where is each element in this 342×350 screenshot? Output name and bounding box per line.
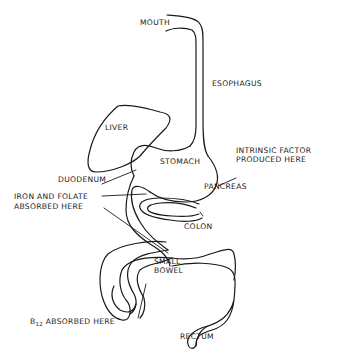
label-duodenum: DUODENUM xyxy=(58,175,106,184)
label-intrinsic-factor-line1: INTRINSIC FACTOR xyxy=(236,146,312,155)
label-rectum: RECTUM xyxy=(180,332,214,341)
label-iron-folate-line1: IRON AND FOLATE xyxy=(14,192,88,201)
label-intrinsic-factor-line2: PRODUCED HERE xyxy=(236,155,306,164)
pancreas xyxy=(140,198,202,221)
label-liver: LIVER xyxy=(105,123,129,132)
liver xyxy=(88,105,170,172)
leader-lines xyxy=(102,170,236,318)
label-colon: COLON xyxy=(184,222,212,231)
b12-rest: ABSORBED HERE xyxy=(43,317,115,326)
label-iron-folate-line2: ABSORBED HERE xyxy=(14,202,83,211)
label-pancreas: PANCREAS xyxy=(204,182,247,191)
duodenum xyxy=(126,176,170,266)
label-stomach: STOMACH xyxy=(160,157,200,166)
digestive-tract-diagram: MOUTH ESOPHAGUS LIVER STOMACH INTRINSIC … xyxy=(0,0,342,350)
label-mouth: MOUTH xyxy=(140,18,170,27)
label-b12-absorbed: B12 ABSORBED HERE xyxy=(30,317,115,327)
label-esophagus: ESOPHAGUS xyxy=(212,79,262,88)
label-small-bowel-line1: SMALL xyxy=(154,257,181,266)
label-small-bowel-line2: BOWEL xyxy=(154,266,184,275)
b12-subscript: 12 xyxy=(36,321,44,327)
esophagus xyxy=(166,15,208,156)
stomach xyxy=(131,145,218,202)
